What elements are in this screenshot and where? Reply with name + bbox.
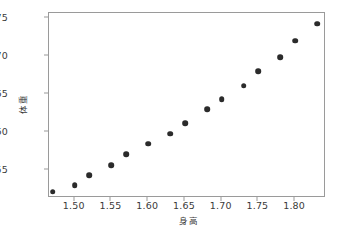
data-point xyxy=(219,97,225,103)
y-tick-label: 75 xyxy=(0,11,8,22)
data-point xyxy=(256,68,262,74)
y-tick-label: 65 xyxy=(0,88,8,99)
x-tick-mark xyxy=(183,197,184,201)
data-point xyxy=(72,182,78,188)
x-tick-mark xyxy=(147,197,148,201)
y-tick-label: 70 xyxy=(0,49,8,60)
data-point xyxy=(109,162,115,168)
data-point xyxy=(314,21,320,27)
x-tick-label: 1.50 xyxy=(63,200,85,211)
data-point xyxy=(292,38,298,44)
data-point xyxy=(241,83,247,89)
scatter-plot-figure: 5560657075 1.501.551.601.651.701.751.80 … xyxy=(0,0,339,239)
x-tick-label: 1.65 xyxy=(173,200,195,211)
data-point xyxy=(145,141,151,147)
x-axis-title: 身高 xyxy=(0,214,339,226)
x-tick-label: 1.55 xyxy=(99,200,121,211)
x-tick-mark xyxy=(73,197,74,201)
data-point xyxy=(167,131,173,137)
data-point xyxy=(278,55,284,61)
x-tick-label: 1.80 xyxy=(283,200,305,211)
data-point xyxy=(50,189,56,195)
data-point xyxy=(123,152,129,158)
data-point xyxy=(204,107,210,113)
data-point xyxy=(87,172,93,178)
y-tick-label: 60 xyxy=(0,126,8,137)
x-axis-title-text: 身高 xyxy=(179,216,198,226)
y-axis-title: 体重 xyxy=(16,95,28,114)
data-point xyxy=(182,120,188,126)
x-tick-label: 1.70 xyxy=(210,200,232,211)
x-tick-label: 1.60 xyxy=(136,200,158,211)
x-tick-mark xyxy=(257,197,258,201)
y-tick-label: 55 xyxy=(0,164,8,175)
data-points-layer xyxy=(49,13,324,196)
plot-area xyxy=(48,12,325,197)
x-tick-mark xyxy=(294,197,295,201)
x-tick-mark xyxy=(110,197,111,201)
x-tick-mark xyxy=(220,197,221,201)
x-tick-label: 1.75 xyxy=(246,200,268,211)
